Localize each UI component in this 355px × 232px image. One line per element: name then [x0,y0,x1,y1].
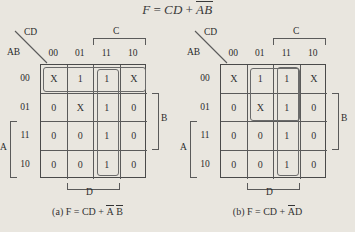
col-header-01-a: 01 [67,48,94,58]
bracket-b-label-a: B [161,113,167,123]
bracket-c-label-a: C [113,26,119,36]
kmap-a: CD AB 00 01 11 10 00 01 11 10 C D B A X1… [0,28,175,232]
row-header-00-a: 00 [14,64,36,93]
kmap-cell-b-r3c0[interactable]: 0 [221,151,248,180]
row-header-11-a: 11 [14,121,36,150]
kmap-cell-a-r1c3[interactable]: 0 [121,94,148,123]
caption-b-term2-a: A [288,205,295,217]
caption-a: (a)F=CD+AB [0,206,175,217]
caption-a-term2-a: A [106,205,113,217]
caption-a-plus: + [98,206,104,217]
caption-b-label: (b) [233,206,245,217]
kmap-cell-b-r2c0[interactable]: 0 [221,122,248,151]
row-header-10-b: 10 [194,150,216,179]
kmap-cell-b-r1c0[interactable]: 0 [221,94,248,123]
title-formula-plus: + [185,2,194,17]
kmap-cell-b-r0c3[interactable]: X [301,65,328,94]
title-formula-eq: = [153,2,162,17]
kmap-cell-a-r2c3[interactable]: 0 [121,122,148,151]
kmap-cell-b-r3c3[interactable]: 0 [301,151,328,180]
caption-a-term2-b: B [116,205,123,217]
kmap-cell-a-r3c2[interactable]: 1 [94,151,121,180]
kmap-cell-b-r1c3[interactable]: 0 [301,94,328,123]
bracket-b-b [332,93,339,150]
axis-corner-label-a: CD AB [6,28,48,64]
title-formula-lhs: F [142,2,150,17]
caption-a-lhs: F [66,206,72,217]
kmap-cell-b-r3c1[interactable]: 0 [248,151,275,180]
bracket-c-a [93,38,146,45]
kmap-cell-b-r0c2[interactable]: 1 [274,65,301,94]
kmap-grid-b: X11X0X1000100010 [220,64,326,178]
title-formula-term1: CD [164,2,183,17]
kmap-cell-b-r2c2[interactable]: 1 [274,122,301,151]
kmap-cell-a-r1c2[interactable]: 1 [94,94,121,123]
bracket-a-label-b: A [180,142,187,152]
kmap-cell-b-r0c0[interactable]: X [221,65,248,94]
row-header-10-a: 10 [14,150,36,179]
diagonal-slash-icon [14,30,48,64]
title-formula: F=CD+AB [0,2,355,18]
caption-a-label: (a) [52,206,63,217]
bracket-b-a [152,93,159,150]
row-header-01-b: 01 [194,93,216,122]
kmap-cell-a-r0c3[interactable]: X [121,65,148,94]
bracket-c-label-b: C [293,26,299,36]
caption-b-lhs: F [247,206,253,217]
col-header-11-a: 11 [93,48,120,58]
row-header-00-b: 00 [194,64,216,93]
figure-root: F=CD+AB CD AB 00 01 11 10 00 01 11 10 C … [0,0,355,232]
col-header-00-a: 00 [40,48,67,58]
bracket-d-label-a: D [86,187,93,197]
caption-b-eq: = [255,206,261,217]
axis-corner-label-b: CD AB [186,28,228,64]
col-header-10-a: 10 [120,48,147,58]
caption-a-term1: CD [82,206,96,217]
col-header-00-b: 00 [220,48,247,58]
bracket-a-label-a: A [0,142,7,152]
kmap-cell-a-r1c1[interactable]: X [68,94,95,123]
kmap-cell-a-r2c1[interactable]: 0 [68,122,95,151]
row-header-01-a: 01 [14,93,36,122]
title-formula-term2-b: B [204,1,212,17]
kmap-cell-a-r0c1[interactable]: 1 [68,65,95,94]
bracket-b-label-b: B [341,113,347,123]
kmap-cell-a-r3c1[interactable]: 0 [68,151,95,180]
kmap-cell-a-r3c3[interactable]: 0 [121,151,148,180]
kmap-b: CD AB 00 01 11 10 00 01 11 10 C D B A X1… [180,28,355,232]
kmap-grid-a: X11X0X1000100010 [40,64,146,178]
kmap-cell-a-r3c0[interactable]: 0 [41,151,68,180]
caption-b-term2-b: D [295,206,302,217]
caption-b: (b)F=CD+AD [180,206,355,217]
bracket-a-a [10,121,17,178]
caption-b-term1: CD [263,206,277,217]
kmap-cell-a-r2c0[interactable]: 0 [41,122,68,151]
bracket-d-a [67,183,120,190]
kmap-cell-b-r3c2[interactable]: 1 [274,151,301,180]
col-header-11-b: 11 [273,48,300,58]
kmap-cell-b-r2c1[interactable]: 0 [248,122,275,151]
bracket-c-b [273,38,326,45]
bracket-d-b [247,183,300,190]
bracket-a-b [190,121,197,178]
kmap-cell-b-r1c2[interactable]: 1 [274,94,301,123]
diagonal-slash-icon [194,30,228,64]
kmap-cell-a-r2c2[interactable]: 1 [94,122,121,151]
caption-a-eq: = [74,206,80,217]
kmap-cell-a-r0c2[interactable]: 1 [94,65,121,94]
kmap-cell-b-r2c3[interactable]: 0 [301,122,328,151]
kmap-cell-b-r0c1[interactable]: 1 [248,65,275,94]
col-header-10-b: 10 [300,48,327,58]
kmap-cell-a-r0c0[interactable]: X [41,65,68,94]
caption-b-plus: + [280,206,286,217]
row-header-11-b: 11 [194,121,216,150]
col-header-01-b: 01 [247,48,274,58]
kmap-cell-a-r1c0[interactable]: 0 [41,94,68,123]
kmap-cell-b-r1c1[interactable]: X [248,94,275,123]
bracket-d-label-b: D [266,187,273,197]
